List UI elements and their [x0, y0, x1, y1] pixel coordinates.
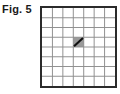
figure-container: Fig. 5 [0, 0, 120, 94]
grid-svg [42, 8, 115, 86]
figure-caption-label: Fig. 5 [2, 3, 32, 16]
grid-line-layer [42, 8, 115, 86]
grid-canvas [42, 8, 115, 86]
grid-panel [40, 6, 117, 88]
